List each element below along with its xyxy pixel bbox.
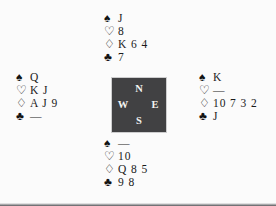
hand-south-hearts: 10 [118, 150, 131, 163]
hand-west: ♠ Q ♡ K J ♢ A J 9 ♣ — [16, 71, 58, 123]
hand-south-clubs: 9 8 [118, 176, 135, 189]
hand-east-clubs-row: ♣ J [199, 110, 258, 123]
hand-east-spades: K [213, 71, 222, 84]
club-icon: ♣ [199, 110, 213, 123]
hand-west-diamonds: A J 9 [30, 97, 58, 110]
hand-north-diamonds: K 6 4 [118, 38, 148, 51]
hand-west-clubs: — [30, 110, 42, 123]
hand-east-diamonds-row: ♢ 10 7 3 2 [199, 97, 258, 110]
compass-north-label: N [132, 83, 146, 94]
compass-east-label: E [148, 99, 162, 110]
hand-north: ♠ J ♡ 8 ♢ K 6 4 ♣ 7 [104, 12, 148, 64]
hand-south-clubs-row: ♣ 9 8 [104, 176, 148, 189]
hand-north-spades: J [118, 12, 123, 25]
scan-bottom-edge [0, 203, 276, 206]
hand-east: ♠ K ♡ — ♢ 10 7 3 2 ♣ J [199, 71, 258, 123]
club-icon: ♣ [104, 51, 118, 64]
hand-south-diamonds: Q 8 5 [118, 163, 148, 176]
hand-north-hearts: 8 [118, 25, 125, 38]
bridge-deal-diagram: ♠ J ♡ 8 ♢ K 6 4 ♣ 7 ♠ Q ♡ K J ♢ A J 9 ♣ [0, 0, 276, 206]
compass-south-label: S [132, 115, 146, 126]
hand-east-diamonds: 10 7 3 2 [213, 97, 258, 110]
compass-west-label: W [116, 99, 130, 110]
hand-west-hearts: K J [30, 84, 48, 97]
hand-east-clubs: J [213, 110, 218, 123]
hand-south: ♠ — ♡ 10 ♢ Q 8 5 ♣ 9 8 [104, 137, 148, 189]
hand-west-spades: Q [30, 71, 39, 84]
club-icon: ♣ [104, 176, 118, 189]
compass-box: N W E S [112, 78, 166, 132]
club-icon: ♣ [16, 110, 30, 123]
hand-east-hearts: — [213, 84, 225, 97]
hand-south-spades: — [118, 137, 130, 150]
hand-north-clubs: 7 [118, 51, 125, 64]
hand-west-clubs-row: ♣ — [16, 110, 58, 123]
hand-north-clubs-row: ♣ 7 [104, 51, 148, 64]
